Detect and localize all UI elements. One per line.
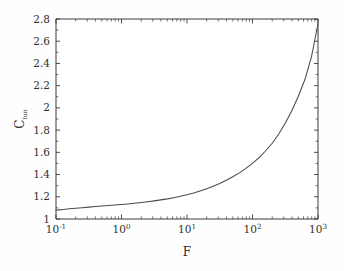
semilog-line-chart: 11.21.41.61.822.22.42.62.8 10-1100101102… (0, 0, 344, 271)
y-tick-label: 2.4 (33, 57, 50, 69)
y-axis-label-subscript: tun (21, 109, 28, 119)
chart-figure: 11.21.41.61.822.22.42.62.8 10-1100101102… (0, 0, 344, 271)
x-axis-tick-labels: 10-1100101102103 (46, 222, 328, 236)
y-tick-label: 1.2 (33, 190, 50, 202)
y-axis-label-base: C (13, 120, 27, 129)
x-tick-label: 103 (309, 222, 327, 236)
x-tick-label: 10-1 (46, 222, 66, 236)
y-tick-label: 2.8 (33, 13, 50, 25)
y-tick-label: 2.6 (33, 35, 50, 47)
y-axis-tick-labels: 11.21.41.61.822.22.42.62.8 (33, 13, 50, 225)
y-tick-label: 1.6 (33, 146, 50, 158)
y-axis-label-group: Ctun (13, 109, 28, 129)
x-tick-label: 100 (113, 222, 131, 236)
x-axis-label: F (183, 245, 191, 259)
x-tick-label: 102 (244, 222, 262, 236)
y-tick-label: 1.4 (33, 168, 50, 180)
y-tick-label: 2.2 (33, 79, 50, 91)
y-tick-label: 1.8 (33, 124, 50, 136)
y-axis-label: Ctun (13, 109, 28, 129)
y-tick-label: 2 (43, 101, 50, 113)
x-tick-label: 101 (178, 222, 196, 236)
plot-area-background (56, 19, 318, 219)
